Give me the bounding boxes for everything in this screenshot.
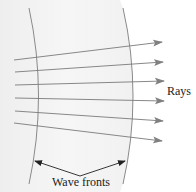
rays-label: Rays: [167, 84, 191, 99]
wave-fronts-label: Wave fronts: [52, 175, 110, 190]
shaded-region: [0, 0, 133, 192]
wave-fronts-rays-diagram: Rays Wave fronts: [0, 0, 196, 192]
